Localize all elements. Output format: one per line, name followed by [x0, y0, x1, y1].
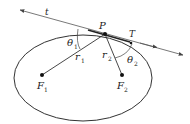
label-f2-sub: 2 [124, 86, 128, 93]
ellipse-diagram: t P T θ 1 r 1 r 2 θ 2 F 1 F 2 [0, 0, 190, 124]
r1-segment [42, 34, 105, 75]
label-t: t [45, 7, 49, 17]
focus-f2 [120, 73, 124, 77]
label-theta2: θ [127, 54, 133, 65]
label-r2-sub: 2 [108, 55, 112, 62]
label-p: P [98, 20, 106, 31]
t-point [130, 42, 133, 45]
label-T: T [129, 29, 136, 39]
tangent-direction-arrow [140, 43, 157, 48]
label-theta2-sub: 2 [134, 60, 138, 67]
focus-f1 [40, 73, 44, 77]
point-p [103, 32, 107, 36]
label-theta1-sub: 1 [74, 43, 78, 50]
label-theta1: θ [67, 37, 73, 48]
label-r1-sub: 1 [81, 57, 85, 64]
label-f1-sub: 1 [44, 86, 48, 93]
